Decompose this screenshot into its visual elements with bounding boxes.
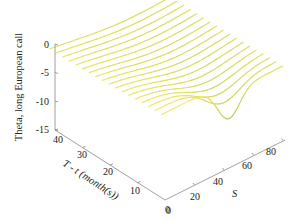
s-axis-label: S (232, 188, 238, 199)
t-tick-10: 10 (130, 185, 140, 196)
z-tick-0: 0 (44, 39, 49, 50)
s-tick-0: 0 (166, 205, 171, 216)
z-axis-label: Theta, long European call (13, 33, 24, 142)
s-tick-40: 40 (213, 176, 223, 187)
t-tick-20: 20 (103, 166, 113, 177)
s-tick-80: 80 (266, 146, 276, 157)
z-tick-3: -15 (36, 124, 49, 135)
t-tick-30: 30 (77, 149, 87, 160)
theta-surface-chart: 0 -5 -10 -15 Theta, long European call 4… (0, 0, 299, 221)
surface-curves (50, 0, 283, 119)
z-tick-2: -10 (36, 96, 49, 107)
t-tick-40: 40 (53, 134, 63, 145)
t-axis-ticks (55, 129, 141, 183)
z-axis-ticks (55, 44, 58, 131)
s-tick-20: 20 (190, 191, 200, 202)
s-tick-60: 60 (242, 160, 252, 171)
z-tick-1: -5 (41, 67, 49, 78)
